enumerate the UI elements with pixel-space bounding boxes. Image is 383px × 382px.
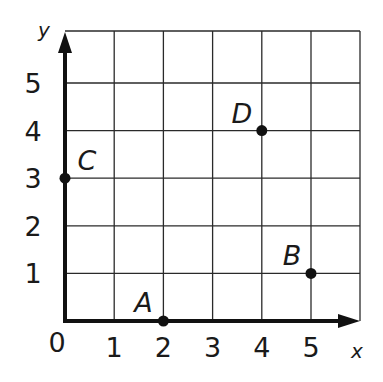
y-axis-label: y bbox=[37, 18, 51, 42]
point-dot bbox=[256, 125, 267, 136]
x-axis-label: x bbox=[350, 339, 363, 363]
coordinate-grid: y x 012345 12345 ABCD bbox=[0, 0, 383, 382]
x-tick-label: 1 bbox=[106, 332, 123, 363]
point-dot bbox=[158, 316, 169, 327]
point-label: A bbox=[132, 287, 152, 318]
point-dot bbox=[60, 173, 71, 184]
y-tick-label: 3 bbox=[24, 163, 41, 194]
y-tick-label: 4 bbox=[24, 116, 41, 147]
point-label: D bbox=[231, 98, 252, 129]
x-tick-labels: 012345 bbox=[48, 327, 319, 363]
grid-lines bbox=[65, 31, 360, 321]
y-tick-label: 1 bbox=[24, 258, 41, 289]
y-tick-label: 2 bbox=[24, 211, 41, 242]
x-tick-label: 3 bbox=[204, 332, 221, 363]
y-tick-label: 5 bbox=[24, 68, 41, 99]
axes: y x bbox=[37, 18, 363, 363]
x-tick-label: 0 bbox=[48, 327, 65, 358]
y-tick-labels: 12345 bbox=[24, 68, 41, 289]
data-points: ABCD bbox=[60, 98, 317, 327]
x-tick-label: 5 bbox=[302, 332, 319, 363]
x-axis-arrow-icon bbox=[338, 314, 360, 328]
point-label: C bbox=[78, 145, 97, 176]
x-tick-label: 2 bbox=[155, 332, 172, 363]
y-axis-arrow-icon bbox=[58, 32, 72, 53]
point-label: B bbox=[283, 240, 302, 271]
point-dot bbox=[306, 268, 317, 279]
x-tick-label: 4 bbox=[253, 332, 270, 363]
